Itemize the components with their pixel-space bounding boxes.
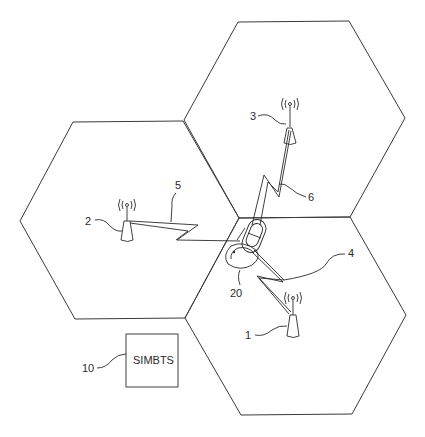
label-link4: 4: [348, 247, 354, 259]
cell-top: [184, 21, 405, 218]
simbts-label: SIMBTS: [133, 354, 174, 366]
radio-link-5: [130, 221, 240, 241]
base-station-1: [285, 292, 302, 338]
label-simbts-ref: 10: [82, 362, 94, 374]
radio-link-4: [252, 250, 291, 314]
base-station-2: [119, 199, 136, 242]
label-link6: 6: [308, 191, 314, 203]
label-bs3: 3: [250, 110, 256, 122]
label-bs2: 2: [85, 215, 91, 227]
radio-link-6: [252, 130, 291, 225]
network-diagram: 3 6 2 5 20 4: [0, 0, 425, 437]
cell-bottom-right: [185, 217, 406, 415]
cell-left: [20, 121, 239, 319]
label-bs1: 1: [245, 329, 251, 341]
label-mobile: 20: [230, 287, 242, 299]
label-link5: 5: [175, 179, 181, 191]
mobile-station-20: [226, 217, 269, 268]
